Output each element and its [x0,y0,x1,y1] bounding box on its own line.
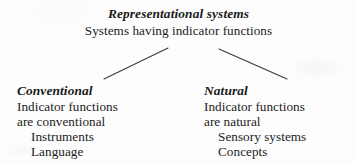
diagram-canvas: Representational systems Systems having … [0,0,357,163]
branch-node-natural: Natural Indicator functions are natural … [204,83,354,159]
branch-node-conventional: Conventional Indicator functions are con… [17,83,187,159]
branch-heading-conventional: Conventional [17,83,187,99]
branch-example-natural-2: Concepts [204,144,354,159]
branch-example-conventional-2: Language [17,144,187,159]
branch-example-conventional-1: Instruments [17,129,187,144]
root-node-heading: Representational systems [0,6,357,22]
branch-line-conventional-2: are conventional [17,114,187,129]
branch-line-natural-2: are natural [204,114,354,129]
branch-heading-natural: Natural [204,83,354,99]
branch-line-conventional-1: Indicator functions [17,99,187,114]
branch-example-natural-1: Sensory systems [204,129,354,144]
connector-line-left [104,48,168,79]
root-node-description: Systems having indicator functions [0,23,357,38]
connector-line-right [219,49,287,79]
root-node: Representational systems Systems having … [0,6,357,38]
branch-line-natural-1: Indicator functions [204,99,354,114]
